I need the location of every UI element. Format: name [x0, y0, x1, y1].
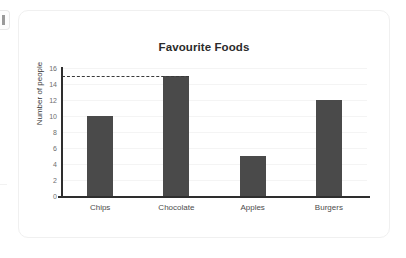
chart-title: Favourite Foods — [19, 41, 389, 53]
cropped-edge-rule — [0, 184, 7, 185]
x-axis-tick-label: Chocolate — [158, 203, 194, 212]
plot-area — [62, 68, 367, 196]
bar — [163, 76, 189, 196]
y-axis-line — [61, 67, 63, 197]
y-axis-tick-label: 6 — [35, 145, 57, 152]
gridline — [62, 68, 367, 69]
x-axis-tick-label: Chips — [90, 203, 110, 212]
y-axis-tick-label: 4 — [35, 161, 57, 168]
gridline — [62, 84, 367, 85]
y-axis-title: Number of people — [35, 44, 44, 144]
x-axis-tick-label: Burgers — [315, 203, 343, 212]
bar — [87, 116, 113, 196]
y-axis-tick-label: 0 — [35, 193, 57, 200]
chart-card: Favourite Foods 0246810121416 Number of … — [18, 10, 390, 238]
x-axis-tick-label: Apples — [240, 203, 264, 212]
reference-line — [62, 76, 189, 77]
edge-fragment-glyph — [2, 15, 5, 25]
cropped-edge-fragment — [0, 10, 10, 30]
x-axis-line — [58, 196, 370, 198]
bar — [316, 100, 342, 196]
y-axis-tick-label: 2 — [35, 177, 57, 184]
bar — [240, 156, 266, 196]
